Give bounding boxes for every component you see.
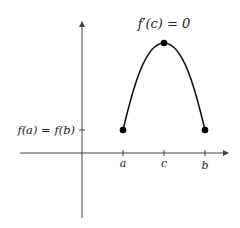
x-tick-label-a: a xyxy=(120,157,127,170)
point-a xyxy=(120,127,127,134)
point-b xyxy=(202,127,209,134)
y-tick-label: f(a) = f(b) xyxy=(16,123,75,137)
x-tick-label-b: b xyxy=(201,159,208,172)
point-c-max xyxy=(161,40,168,47)
x-tick-label-c: c xyxy=(161,157,167,170)
function-curve xyxy=(123,43,205,130)
rolles-theorem-diagram: f′(c) = 0 f(a) = f(b) a c b xyxy=(0,0,240,228)
derivative-annotation: f′(c) = 0 xyxy=(137,16,191,31)
